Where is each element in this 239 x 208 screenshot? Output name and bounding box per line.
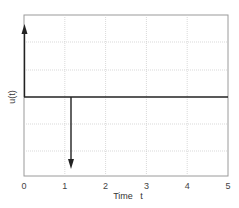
svg-text:0: 0: [21, 181, 26, 191]
svg-text:3: 3: [144, 181, 149, 191]
svg-text:4: 4: [185, 181, 190, 191]
x-axis-label: Time t: [113, 191, 143, 201]
svg-text:1: 1: [62, 181, 67, 191]
impulse-chart: 0 1 2 3 4 5 Time t u(t): [0, 0, 239, 208]
svg-text:5: 5: [225, 181, 230, 191]
y-axis-label: u(t): [7, 90, 17, 104]
plot-area: [24, 15, 228, 176]
x-tick-labels: 0 1 2 3 4 5: [21, 181, 230, 191]
svg-text:2: 2: [103, 181, 108, 191]
